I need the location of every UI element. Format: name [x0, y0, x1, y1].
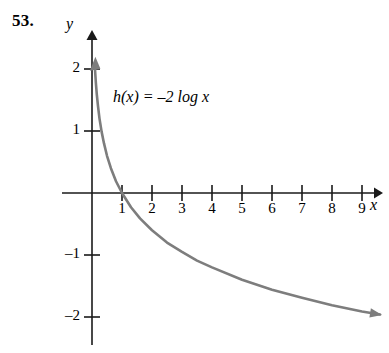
x-tick-label-2: 2: [142, 200, 162, 217]
x-tick-label-7: 7: [292, 200, 312, 217]
x-tick-label-3: 3: [172, 200, 192, 217]
y-tick-label-1: 1: [0, 121, 80, 138]
problem-number: 53.: [12, 11, 34, 31]
x-tick-label-9: 9: [352, 200, 372, 217]
x-tick-label-6: 6: [262, 200, 282, 217]
graph-figure: 53. y x h(x) = –2 log x: [0, 0, 389, 353]
x-tick-label-8: 8: [322, 200, 342, 217]
x-tick-label-4: 4: [202, 200, 222, 217]
curve-lower-arrowhead: [369, 308, 382, 317]
y-tick-label-neg2: –2: [0, 307, 80, 324]
y-axis-arrowhead: [87, 30, 98, 40]
y-tick-label-2: 2: [0, 59, 80, 76]
x-tick-label-1: 1: [112, 200, 132, 217]
coordinate-plane: [0, 0, 389, 353]
y-tick-label-neg1: –1: [0, 245, 80, 262]
equation-text: h(x) = –2 log x: [113, 88, 209, 105]
x-tick-label-5: 5: [232, 200, 252, 217]
y-axis-label: y: [66, 15, 73, 33]
equation-annotation: h(x) = –2 log x: [113, 88, 209, 106]
